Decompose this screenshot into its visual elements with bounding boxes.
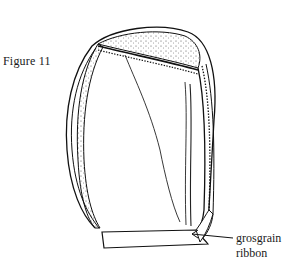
grosgrain-ribbon [102, 230, 208, 248]
hat-illustration [0, 0, 295, 268]
callout-line-1: grosgrain [236, 231, 281, 246]
fold-line [125, 55, 180, 222]
left-band [77, 44, 103, 228]
right-edge [196, 68, 205, 232]
callout-line-2: ribbon [236, 246, 281, 261]
callout-grosgrain-ribbon: grosgrain ribbon [236, 231, 281, 261]
